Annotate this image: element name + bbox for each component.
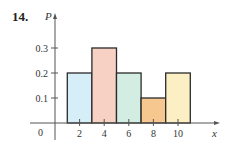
x-tick-label: 10 [173, 128, 183, 139]
x-axis-label: x [211, 127, 217, 139]
histogram-bar [67, 73, 92, 123]
x-axis-arrow-icon [214, 121, 220, 125]
x-tick-label: 8 [151, 128, 156, 139]
x-tick-label: 4 [102, 128, 107, 139]
y-tick-label: 0.2 [36, 68, 49, 79]
histogram-bar [166, 73, 191, 123]
x-tick-label: 6 [126, 128, 131, 139]
y-axis-arrow-icon [53, 13, 57, 19]
histogram-chart: 0.10.20.3 246810 P x 0 [0, 0, 230, 147]
y-tick-label: 0.1 [36, 93, 49, 104]
histogram-bar [92, 48, 117, 123]
y-axis-label: P [44, 10, 52, 22]
origin-label: 0 [38, 127, 43, 138]
bars-group [67, 48, 190, 123]
histogram-bar [117, 73, 142, 123]
y-tick-label: 0.3 [36, 43, 49, 54]
x-tick-label: 2 [77, 128, 82, 139]
